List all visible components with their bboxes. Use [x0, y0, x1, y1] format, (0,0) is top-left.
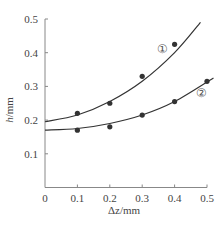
- series-2-point: [172, 99, 177, 104]
- chart: 00.10.20.30.40.50.10.20.30.40.5 ① ② Δz/m…: [0, 0, 222, 227]
- y-tick-label: 0.1: [24, 148, 38, 160]
- series-1-curve: [45, 22, 201, 121]
- y-tick-label: 0.3: [24, 80, 38, 92]
- series-1-point: [172, 42, 177, 47]
- y-tick-label: 0.2: [24, 114, 38, 126]
- y-tick-label: 0.5: [24, 13, 38, 25]
- series-2-point: [140, 112, 145, 117]
- series-2-point: [75, 128, 80, 133]
- series-2-point: [204, 79, 209, 84]
- x-tick-label: 0: [42, 192, 48, 204]
- x-axis-title: Δz/mm: [108, 204, 141, 216]
- fit-curves: [45, 22, 213, 130]
- y-axis-title-unit: /mm: [3, 97, 15, 118]
- axes: 00.10.20.30.40.50.10.20.30.40.5: [24, 13, 214, 204]
- series-2-curve: [45, 78, 213, 130]
- series-1-label: ①: [157, 42, 168, 56]
- series-1-point: [140, 74, 145, 79]
- series-2-point: [107, 124, 112, 129]
- y-tick-label: 0.4: [24, 47, 38, 59]
- data-points: [75, 42, 210, 133]
- x-tick-label: 0.2: [103, 192, 117, 204]
- y-axis-title: h/mm: [3, 97, 15, 123]
- series-1-point: [75, 111, 80, 116]
- series-1-point: [107, 101, 112, 106]
- x-tick-label: 0.1: [71, 192, 85, 204]
- series-2-label: ②: [196, 86, 207, 100]
- x-tick-label: 0.5: [200, 192, 214, 204]
- x-tick-label: 0.4: [168, 192, 182, 204]
- x-tick-label: 0.3: [135, 192, 149, 204]
